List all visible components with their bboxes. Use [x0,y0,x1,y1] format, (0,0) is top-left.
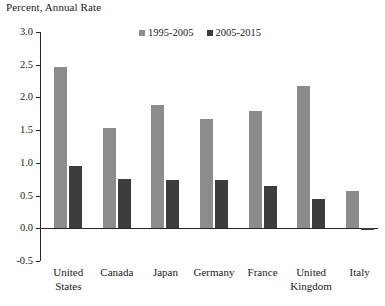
y-axis-tick [36,228,40,229]
bar [54,67,67,229]
y-axis-tick-label: 1.5 [20,125,33,136]
bar-group [346,32,374,261]
y-axis-tick [36,65,40,66]
bar [361,228,374,229]
bar-group [151,32,179,261]
y-axis-tick-label: -0.5 [16,256,33,267]
bar [312,199,325,228]
plot-area [40,32,380,261]
x-axis-category-label-line: States [28,280,108,294]
y-axis-tick [36,196,40,197]
x-axis-category-labels: UnitedStatesCanadaJapanGermanyFranceUnit… [40,266,380,306]
bar [166,180,179,228]
bar [346,191,359,228]
y-axis-tick [36,97,40,98]
x-axis-category-label-line: Kingdom [271,280,351,294]
x-axis-category-label: Italy [320,266,385,280]
bar-group [249,32,277,261]
bar [103,128,116,228]
y-axis-tick [36,261,40,262]
bar [118,179,131,228]
bar-group [54,32,82,261]
y-axis-tick-label: 0.0 [20,223,33,234]
bar-group [297,32,325,261]
bar [297,86,310,228]
x-axis-category-label-line: Italy [320,266,385,280]
bar-group [103,32,131,261]
bar-group [200,32,228,261]
bar [215,180,228,228]
y-axis-tick [36,32,40,33]
y-axis-tick-label: 0.5 [20,191,33,202]
y-axis-tick [36,130,40,131]
bar [151,105,164,228]
y-axis-line [40,32,41,261]
bar [264,186,277,229]
chart-title: Percent, Annual Rate [6,1,101,14]
y-axis-tick-label: 2.5 [20,60,33,71]
bar-chart: Percent, Annual Rate 1995-2005 2005-2015… [0,0,385,306]
bar [69,166,82,229]
y-axis-tick-label: 3.0 [20,27,33,38]
bar [249,111,262,229]
bar [200,119,213,228]
y-axis-tick [36,163,40,164]
y-axis-tick-label: 1.0 [20,158,33,169]
y-axis-tick-labels: 3.02.52.01.51.00.50.0-0.5 [0,32,33,261]
y-axis-tick-label: 2.0 [20,92,33,103]
